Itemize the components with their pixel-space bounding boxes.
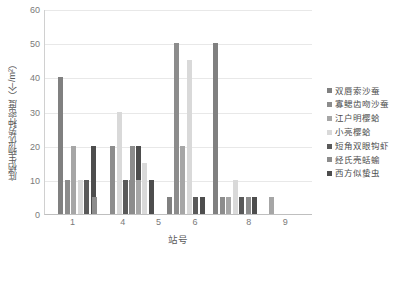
x-axis-tick: 9 [283,217,288,227]
bar [123,180,128,214]
legend-item[interactable]: 江户明樱蛤 [327,112,415,126]
y-axis-tick: 0 [35,210,40,220]
legend-label: 短角双眼钩虾 [335,142,389,151]
y-axis-title-label: 底栖生物优势种密度（个/m²） [5,60,18,181]
bar [220,197,225,214]
bar-series-container [45,10,312,214]
bar [110,146,115,214]
bar [213,43,218,214]
bar [226,197,231,214]
legend-item[interactable]: 短角双眼钩虾 [327,139,415,153]
bar [193,197,198,214]
legend-label: 经氏壳蛞蝓 [335,156,380,165]
legend-label: 小亮樱蛤 [335,128,371,137]
legend-item[interactable]: 双唇索沙蚕 [327,84,415,98]
y-axis-tick: 60 [30,5,40,15]
bar [200,197,205,214]
legend-item[interactable]: 西方似蛰虫 [327,167,415,181]
y-axis-tick: 30 [30,108,40,118]
legend-item[interactable]: 小亮樱蛤 [327,125,415,139]
bar [233,180,238,214]
legend-label: 寡鳃齿吻沙蚕 [335,100,389,109]
y-axis-tick-labels: 0102030405060 [20,0,42,240]
legend-swatch-icon [327,157,332,162]
bar [239,197,244,214]
bar [180,146,185,214]
legend-label: 江户明樱蛤 [335,114,380,123]
legend-swatch-icon [327,102,332,107]
x-axis-tick: 6 [193,217,198,227]
bar [78,180,83,214]
y-axis-tick: 20 [30,142,40,152]
legend-label: 双唇索沙蚕 [335,87,380,96]
legend-label: 西方似蛰虫 [335,169,380,178]
legend-swatch-icon [327,88,332,93]
bar [84,180,89,214]
bar [167,197,172,214]
bar [252,197,257,214]
plot-area [44,10,312,215]
bar [187,60,192,214]
y-axis-tick: 50 [30,39,40,49]
bar [129,180,134,214]
legend: 双唇索沙蚕寡鳃齿吻沙蚕江户明樱蛤小亮樱蛤短角双眼钩虾经氏壳蛞蝓西方似蛰虫 [327,84,415,181]
x-axis-tick-labels: 145689 [44,217,312,231]
x-axis-tick: 4 [120,217,125,227]
legend-item[interactable]: 经氏壳蛞蝓 [327,153,415,167]
bar [92,197,97,214]
bar [71,146,76,214]
x-axis-title: 站号 [44,232,312,246]
y-axis-title: 底栖生物优势种密度（个/m²） [2,0,20,240]
legend-swatch-icon [327,116,332,121]
x-axis-tick: 1 [70,217,75,227]
bar [174,43,179,214]
bar [142,163,147,214]
y-axis-tick: 40 [30,73,40,83]
bar [58,77,63,214]
legend-swatch-icon [327,130,332,135]
bar-chart: 底栖生物优势种密度（个/m²） 0102030405060 145689 站号 … [0,0,416,289]
bar [269,197,274,214]
legend-item[interactable]: 寡鳃齿吻沙蚕 [327,98,415,112]
x-axis-tick: 5 [156,217,161,227]
bar [246,197,251,214]
y-axis-tick: 10 [30,176,40,186]
bar [149,180,154,214]
legend-swatch-icon [327,171,332,176]
legend-swatch-icon [327,144,332,149]
x-axis-tick: 8 [246,217,251,227]
bar [117,112,122,215]
bar [65,180,70,214]
bar [136,180,141,214]
